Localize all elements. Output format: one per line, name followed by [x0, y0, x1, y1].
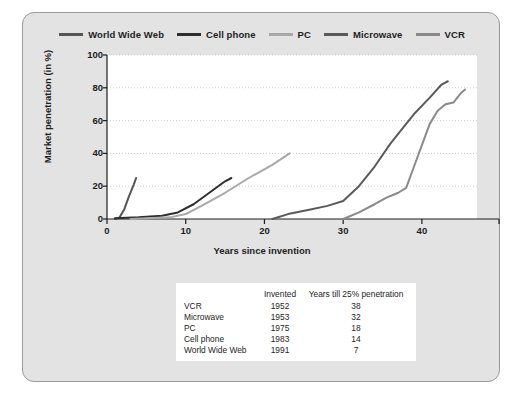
table-cell: 14 — [304, 333, 408, 344]
table-cell: 1975 — [256, 323, 304, 334]
x-tick-label: 30 — [330, 225, 356, 236]
table-row: PC197518 — [184, 323, 408, 334]
x-tick-label: 10 — [173, 225, 199, 236]
table-cell: World Wide Web — [184, 344, 256, 355]
table-cell: 1991 — [256, 344, 304, 355]
x-tick-label: 20 — [251, 225, 277, 236]
x-tick-label: 40 — [409, 225, 435, 236]
table-column-header: Years till 25% penetration — [304, 289, 408, 301]
chart-panel: World Wide WebCell phonePCMicrowaveVCR M… — [22, 12, 500, 382]
table-cell: VCR — [184, 301, 256, 312]
summary-table-panel: InventedYears till 25% penetration VCR19… — [176, 283, 416, 361]
plot-area: Market penetration (in %) 020406080100 0… — [23, 13, 501, 263]
table-cell: Cell phone — [184, 333, 256, 344]
table-cell: 18 — [304, 323, 408, 334]
table-cell: 7 — [304, 344, 408, 355]
table-column-header — [184, 289, 256, 301]
table-column-header: Invented — [256, 289, 304, 301]
summary-table: InventedYears till 25% penetration VCR19… — [184, 289, 408, 355]
table-cell: 1952 — [256, 301, 304, 312]
table-cell: 38 — [304, 301, 408, 312]
table-header-row: InventedYears till 25% penetration — [184, 289, 408, 301]
table-cell: 32 — [304, 312, 408, 323]
table-row: VCR195238 — [184, 301, 408, 312]
table-row: Cell phone198314 — [184, 333, 408, 344]
plot-background — [107, 55, 477, 219]
x-tick-label: 0 — [94, 225, 120, 236]
table-row: Microwave195332 — [184, 312, 408, 323]
table-cell: 1953 — [256, 312, 304, 323]
table-cell: 1983 — [256, 333, 304, 344]
x-axis-label: Years since invention — [23, 245, 501, 256]
table-cell: Microwave — [184, 312, 256, 323]
table-cell: PC — [184, 323, 256, 334]
table-body: VCR195238Microwave195332PC197518Cell pho… — [184, 301, 408, 355]
x-axis-ticks: 010203040 — [23, 219, 501, 243]
table-row: World Wide Web19917 — [184, 344, 408, 355]
